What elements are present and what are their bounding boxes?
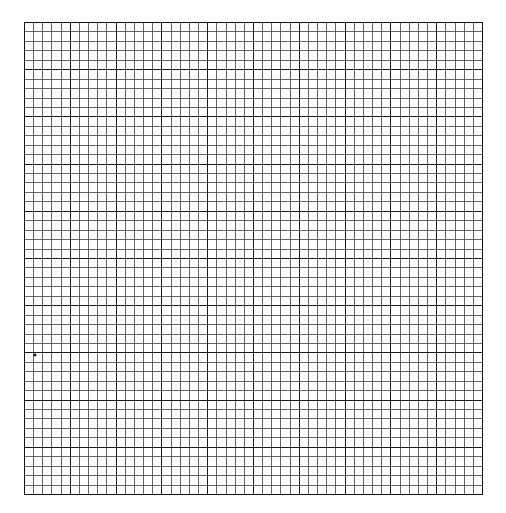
major-grid-lines [24, 22, 482, 494]
grid-svg [0, 0, 506, 513]
grid-marks [34, 354, 37, 357]
dot-mark [34, 354, 37, 357]
